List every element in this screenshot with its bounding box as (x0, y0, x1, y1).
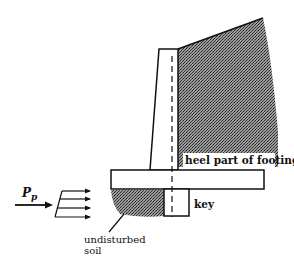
undisturbed-soil-label-line2: soil (84, 245, 102, 256)
heel-label: heel part of footing (185, 154, 294, 166)
undisturbed-soil (111, 190, 164, 217)
footing (111, 170, 264, 189)
undisturbed-soil-label-line1: undisturbed (84, 234, 146, 245)
retaining-wall-diagram: Pp heel part of footing key undisturbed … (0, 0, 294, 269)
backfill-soil (178, 18, 278, 167)
resultant-force-arrow (15, 202, 53, 209)
shear-key (164, 189, 189, 216)
passive-pressure-diagram (55, 189, 91, 220)
key-label: key (194, 198, 215, 210)
wall-stem (150, 49, 178, 170)
force-label: Pp (21, 186, 38, 202)
soil-leader-line (109, 214, 124, 232)
